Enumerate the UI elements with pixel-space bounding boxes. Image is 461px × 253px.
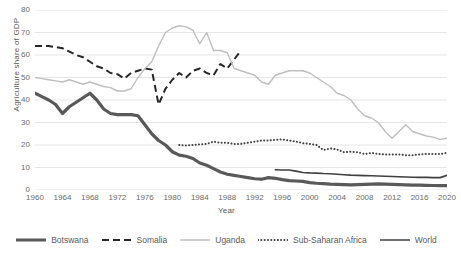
legend-label: Botswana — [51, 235, 88, 245]
x-tick-1988: 1988 — [212, 194, 242, 202]
chart-legend: BotswanaSomaliaUgandaSub-Saharan AfricaW… — [0, 231, 453, 249]
legend-item-world[interactable]: World — [380, 235, 437, 245]
y-tick-50: 50 — [8, 74, 30, 82]
x-axis-title: Year — [0, 206, 453, 215]
legend-label: Sub-Saharan Africa — [293, 235, 367, 245]
x-tick-2020: 2020 — [432, 194, 461, 202]
legend-item-sub-saharan-africa[interactable]: Sub-Saharan Africa — [258, 235, 367, 245]
legend-label: World — [415, 235, 437, 245]
x-tick-1980: 1980 — [157, 194, 187, 202]
y-axis-tick-labels: 01020304050607080 — [6, 0, 30, 253]
y-tick-70: 70 — [8, 29, 30, 37]
legend-label: Uganda — [215, 235, 245, 245]
chart-canvas — [35, 10, 447, 190]
y-tick-30: 30 — [8, 119, 30, 127]
series-line-world — [275, 170, 447, 178]
x-tick-1976: 1976 — [130, 194, 160, 202]
x-tick-1996: 1996 — [267, 194, 297, 202]
x-tick-2004: 2004 — [322, 194, 352, 202]
y-tick-60: 60 — [8, 51, 30, 59]
legend-item-botswana[interactable]: Botswana — [16, 235, 88, 245]
plot-area — [35, 10, 447, 190]
legend-swatch-sub-saharan-africa-icon — [258, 236, 288, 244]
legend-swatch-world-icon — [380, 236, 410, 244]
x-tick-2016: 2016 — [405, 194, 435, 202]
x-tick-2012: 2012 — [377, 194, 407, 202]
legend-swatch-somalia-icon — [102, 236, 132, 244]
x-axis-tick-labels: 1960196419681972197619801984198819921996… — [0, 194, 453, 206]
x-tick-1960: 1960 — [20, 194, 50, 202]
y-tick-40: 40 — [8, 96, 30, 104]
legend-swatch-botswana-icon — [16, 236, 46, 244]
x-tick-1972: 1972 — [102, 194, 132, 202]
x-tick-1992: 1992 — [240, 194, 270, 202]
legend-item-uganda[interactable]: Uganda — [180, 235, 245, 245]
y-tick-80: 80 — [8, 6, 30, 14]
legend-label: Somalia — [137, 235, 168, 245]
y-tick-20: 20 — [8, 141, 30, 149]
series-line-botswana — [35, 93, 447, 185]
x-tick-1984: 1984 — [185, 194, 215, 202]
legend-item-somalia[interactable]: Somalia — [102, 235, 168, 245]
series-line-sub-saharan-africa — [179, 139, 447, 155]
x-tick-2000: 2000 — [295, 194, 325, 202]
x-tick-1964: 1964 — [47, 194, 77, 202]
x-tick-2008: 2008 — [350, 194, 380, 202]
x-tick-1968: 1968 — [75, 194, 105, 202]
y-tick-10: 10 — [8, 164, 30, 172]
legend-swatch-uganda-icon — [180, 236, 210, 244]
